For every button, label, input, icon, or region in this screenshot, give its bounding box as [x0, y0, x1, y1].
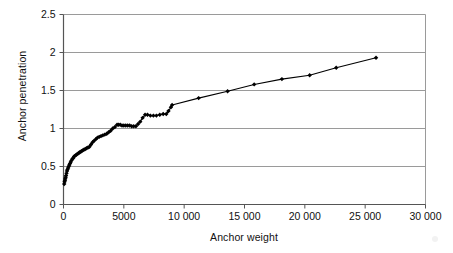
x-axis-tick-labels: 0500010 00015 00020 00025 00030 000: [61, 210, 442, 222]
data-point-marker: [252, 82, 256, 86]
y-axis-tick-labels: 00.511.522.5: [41, 8, 56, 210]
data-point-marker: [158, 113, 162, 117]
y-tick-label: 1.5: [41, 84, 56, 96]
x-axis-ticks: [64, 205, 426, 209]
corner-artifact: [432, 236, 438, 242]
x-tick-label: 30 000: [409, 210, 441, 222]
x-tick-label: 10 000: [168, 210, 200, 222]
plot-area: 0500010 00015 00020 00025 00030 000 00.5…: [0, 0, 453, 253]
data-point-marker: [196, 96, 200, 100]
y-tick-label: 2: [50, 46, 56, 58]
x-tick-label: 5000: [112, 210, 136, 222]
gridlines: [64, 15, 426, 205]
data-point-marker: [374, 56, 378, 60]
y-tick-label: 0.5: [41, 160, 56, 172]
data-point-marker: [280, 77, 284, 81]
x-tick-label: 15 000: [228, 210, 260, 222]
axis-lines: [64, 15, 426, 205]
chart-figure: Anchor penetration Anchor weight 0500010…: [0, 0, 453, 253]
series-line: [64, 58, 376, 184]
x-tick-label: 25 000: [349, 210, 381, 222]
data-point-marker: [334, 66, 338, 70]
y-tick-label: 0: [50, 198, 56, 210]
y-tick-label: 2.5: [41, 8, 56, 20]
data-point-marker: [154, 113, 158, 117]
x-tick-label: 0: [61, 210, 67, 222]
data-point-marker: [225, 89, 229, 93]
y-tick-label: 1: [50, 122, 56, 134]
x-tick-label: 20 000: [289, 210, 321, 222]
data-point-marker: [307, 73, 311, 77]
